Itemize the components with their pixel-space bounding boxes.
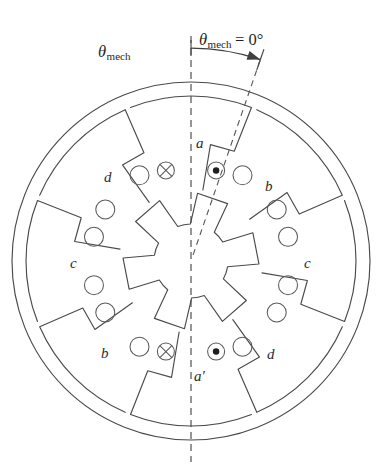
theta-subscript-reference: mech <box>208 38 232 50</box>
reference-axis-label: θmech = 0° <box>199 32 263 49</box>
rotor-body <box>123 193 259 328</box>
stator-pole-3 <box>233 320 343 413</box>
conductor-coil-circle <box>267 303 286 322</box>
conductor-coil-circle <box>84 227 103 246</box>
rotation-angle-label: θmech <box>98 44 130 61</box>
stator-pole-c-left-label: c <box>70 256 77 271</box>
conductor-dot <box>213 167 219 173</box>
theta-symbol-reference: θ <box>199 30 207 49</box>
stator-pole-5 <box>40 303 133 413</box>
conductor-coil-circle <box>279 276 298 295</box>
theta-subscript-angle: mech <box>107 50 131 62</box>
theta-equals-zero: = 0° <box>231 30 263 49</box>
conductor-coil-circle <box>279 227 298 246</box>
stator-pole-d-upper-left-label: d <box>104 170 112 185</box>
conductor-coil-circle <box>96 303 115 322</box>
figure-canvas: θmech = 0° θmech abcda′bcd <box>0 0 389 469</box>
conductor-coil-circle <box>84 276 103 295</box>
motor-cross-section-svg <box>0 0 389 469</box>
stator-pole-7 <box>40 110 150 203</box>
conductor-coil-circle <box>233 166 252 185</box>
stator-pole-a-prime-label: a′ <box>194 369 205 384</box>
stator-pole-1 <box>250 110 343 220</box>
stator-pole-b-lower-left-label: b <box>101 346 109 361</box>
stator-pole-d-lower-right-label: d <box>267 347 275 362</box>
conductor-coil-circle <box>96 200 115 219</box>
stator-pole-c-right-label: c <box>304 256 311 271</box>
angle-arc-arrowhead <box>247 51 261 60</box>
stator-pole-a-label: a <box>196 136 204 151</box>
conductor-coil-circle <box>267 200 286 219</box>
stator-pole-b-upper-right-label: b <box>265 179 273 194</box>
conductor-dot <box>213 348 219 354</box>
conductor-coil-circle <box>130 166 149 185</box>
conductor-coil-circle <box>233 337 252 356</box>
conductor-coil-circle <box>130 337 149 356</box>
rotor-axis-dashed-line <box>192 61 260 258</box>
theta-symbol-angle: θ <box>98 42 106 61</box>
